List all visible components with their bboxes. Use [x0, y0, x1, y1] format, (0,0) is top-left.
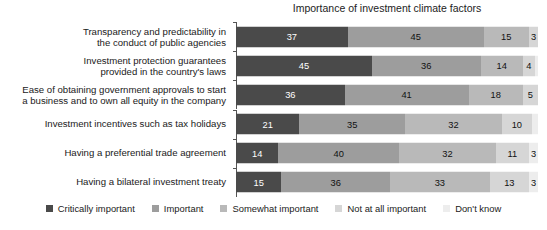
bar-segment: 3 — [529, 26, 538, 47]
bar-row: Having a bilateral investment treaty1536… — [0, 168, 547, 197]
segment-value-label: 45 — [299, 61, 309, 71]
segment-value-label: 14 — [497, 61, 507, 71]
bar-row: Investment protection guarantees provide… — [0, 51, 547, 80]
bar-segment: 18 — [469, 84, 523, 105]
chart-legend: Critically importantImportantSomewhat im… — [0, 203, 547, 214]
legend-item[interactable]: Critically important — [46, 203, 135, 214]
bar-segment: 14 — [481, 55, 523, 76]
segment-value-label: 37 — [287, 32, 297, 42]
bar-segment: 36 — [281, 172, 390, 193]
legend-swatch-icon — [46, 205, 53, 212]
stacked-bar: 144032113 — [236, 143, 538, 164]
segment-value-label: 32 — [448, 119, 458, 129]
segment-value-label: 10 — [512, 119, 522, 129]
segment-value-label: 13 — [504, 177, 514, 187]
segment-value-label: 3 — [531, 148, 536, 158]
legend-swatch-icon — [220, 205, 227, 212]
bar-row: Ease of obtaining government approvals t… — [0, 80, 547, 109]
plot-area: Transparency and predictability in the c… — [0, 22, 547, 197]
stacked-bar: 4536144 — [236, 55, 538, 76]
bar-segment: 15 — [236, 172, 281, 193]
stacked-bar: 153633133 — [236, 172, 538, 193]
legend-label: Important — [164, 203, 204, 214]
segment-value-label: 33 — [435, 177, 445, 187]
segment-value-label: 3 — [531, 177, 536, 187]
bar-segment: 32 — [405, 114, 502, 135]
legend-label: Don't know — [455, 203, 501, 214]
segment-value-label: 4 — [526, 61, 531, 71]
segment-value-label: 14 — [252, 148, 262, 158]
bar-segment: 21 — [236, 114, 299, 135]
segment-value-label: 15 — [501, 32, 511, 42]
segment-value-label: 36 — [285, 90, 295, 100]
bar-segment: 36 — [372, 55, 481, 76]
bar-segment: 4 — [523, 55, 535, 76]
bar-segment: 45 — [348, 26, 484, 47]
bar-segment: 10 — [502, 114, 532, 135]
bar-segment: 36 — [236, 84, 345, 105]
bar-segment: 3 — [529, 172, 538, 193]
legend-swatch-icon — [443, 205, 450, 212]
bar-segment: 15 — [484, 26, 529, 47]
legend-item[interactable]: Important — [152, 203, 204, 214]
segment-value-label: 45 — [411, 32, 421, 42]
bar-segment: 5 — [523, 84, 538, 105]
segment-value-label: 18 — [491, 90, 501, 100]
bar-segment: 37 — [236, 26, 348, 47]
stacked-bar: 3641185 — [236, 84, 538, 105]
category-label: Having a bilateral investment treaty — [0, 177, 232, 189]
chart-title: Importance of investment climate factors — [236, 2, 538, 15]
stacked-bar: 21353210 — [236, 114, 538, 135]
segment-value-label: 32 — [442, 148, 452, 158]
stacked-bar-chart: Importance of investment climate factors… — [0, 0, 547, 230]
bar-segment: 32 — [399, 143, 496, 164]
bar-row: Having a preferential trade agreement144… — [0, 139, 547, 168]
legend-item[interactable]: Somewhat important — [220, 203, 318, 214]
legend-label: Not at all important — [347, 203, 426, 214]
segment-value-label: 11 — [508, 148, 518, 158]
bar-row: Investment incentives such as tax holida… — [0, 110, 547, 139]
bar-segment: 35 — [299, 114, 405, 135]
segment-value-label: 5 — [528, 90, 533, 100]
segment-value-label: 36 — [330, 177, 340, 187]
legend-item[interactable]: Don't know — [443, 203, 501, 214]
category-label: Transparency and predictability in the c… — [0, 25, 232, 48]
bar-segment — [532, 114, 538, 135]
bar-segment: 33 — [390, 172, 490, 193]
segment-value-label: 40 — [334, 148, 344, 158]
stacked-bar: 3745153 — [236, 26, 538, 47]
segment-value-label: 41 — [401, 90, 411, 100]
segment-value-label: 3 — [531, 32, 536, 42]
category-label: Investment protection guarantees provide… — [0, 54, 232, 77]
category-label: Having a preferential trade agreement — [0, 147, 232, 159]
bar-segment: 13 — [490, 172, 529, 193]
legend-swatch-icon — [152, 205, 159, 212]
category-label: Ease of obtaining government approvals t… — [0, 83, 232, 106]
bar-segment: 40 — [278, 143, 399, 164]
legend-label: Somewhat important — [232, 203, 318, 214]
bar-segment: 41 — [345, 84, 469, 105]
bar-row: Transparency and predictability in the c… — [0, 22, 547, 51]
segment-value-label: 21 — [263, 119, 273, 129]
bar-segment — [535, 55, 538, 76]
bar-segment: 11 — [496, 143, 529, 164]
segment-value-label: 35 — [347, 119, 357, 129]
legend-label: Critically important — [58, 203, 135, 214]
segment-value-label: 36 — [421, 61, 431, 71]
bar-segment: 14 — [236, 143, 278, 164]
segment-value-label: 15 — [253, 177, 263, 187]
legend-swatch-icon — [335, 205, 342, 212]
category-label: Investment incentives such as tax holida… — [0, 118, 232, 130]
legend-item[interactable]: Not at all important — [335, 203, 426, 214]
bar-segment: 3 — [529, 143, 538, 164]
bar-segment: 45 — [236, 55, 372, 76]
